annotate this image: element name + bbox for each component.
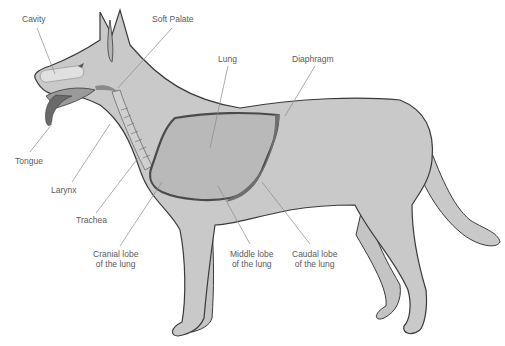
label-middle-lobe: Middle lobe of the lung: [230, 249, 273, 269]
label-diaphragm: Diaphragm: [292, 54, 334, 64]
label-cranial-lobe: Cranial lobe of the lung: [93, 249, 138, 269]
label-trachea: Trachea: [76, 215, 107, 225]
dog-anatomy-illustration: [0, 0, 505, 346]
label-caudal-lobe: Caudal lobe of the lung: [292, 249, 337, 269]
label-middle-lobe-line1: Middle lobe: [230, 249, 273, 259]
label-lung: Lung: [218, 54, 237, 64]
label-cranial-lobe-line1: Cranial lobe: [93, 249, 138, 259]
ear: [108, 20, 113, 62]
label-soft-palate: Soft Palate: [152, 14, 194, 24]
label-middle-lobe-line2: of the lung: [230, 259, 273, 269]
label-cavity: Cavity: [22, 14, 46, 24]
label-cranial-lobe-line2: of the lung: [93, 259, 138, 269]
label-tongue: Tongue: [15, 156, 43, 166]
label-caudal-lobe-line2: of the lung: [292, 259, 337, 269]
label-caudal-lobe-line1: Caudal lobe: [292, 249, 337, 259]
label-larynx: Larynx: [51, 185, 77, 195]
